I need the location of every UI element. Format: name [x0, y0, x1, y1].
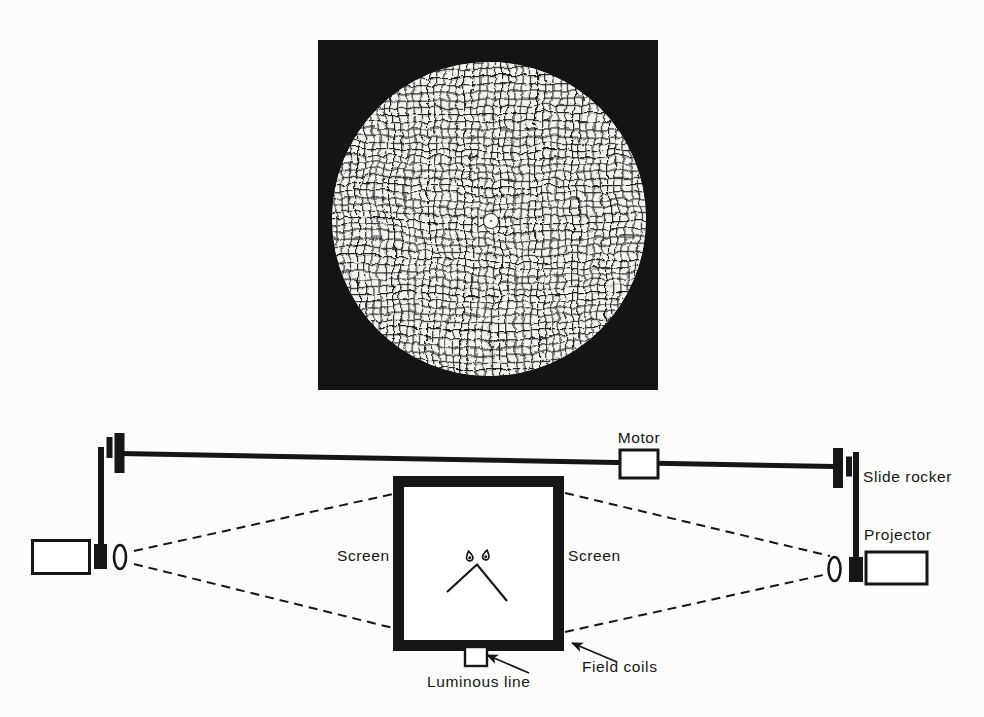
figure-page: Motor Slide rocker Projector Screen Scre… — [0, 0, 984, 717]
field-coil-screen-box — [399, 482, 559, 646]
right-lens — [829, 557, 841, 581]
left-projector — [33, 541, 127, 574]
distorted-grid-svg — [318, 40, 658, 390]
fixation-dot-center — [490, 220, 492, 222]
left-lens — [114, 545, 126, 569]
luminous-line-marker — [465, 647, 487, 666]
motor-label: Motor — [618, 429, 661, 446]
rocker-arm-shaft — [120, 454, 834, 467]
screen-right-label: Screen — [568, 547, 621, 564]
luminous-line-arrow — [487, 655, 529, 673]
motor-box — [620, 450, 658, 478]
left-rocker-hanger — [101, 433, 125, 556]
projector-label: Projector — [864, 526, 931, 543]
right-rocker-hanger — [833, 448, 856, 566]
apparatus-diagram: Motor Slide rocker Projector Screen Scre… — [0, 420, 984, 717]
luminous-line-label: Luminous line — [427, 673, 530, 690]
right-projector — [829, 552, 928, 584]
field-coils-label: Field coils — [582, 658, 658, 675]
distorted-grid-photo — [318, 40, 658, 390]
slide-rocker-label: Slide rocker — [863, 468, 952, 485]
screen-left-label: Screen — [337, 547, 390, 564]
